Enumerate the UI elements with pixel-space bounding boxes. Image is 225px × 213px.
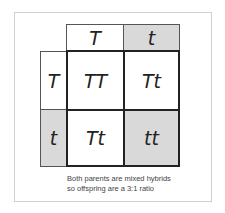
- caption: Both parents are mixed hybrids so offspr…: [67, 174, 217, 194]
- offspring-cell-tt: tt: [123, 109, 180, 167]
- caption-line-1: Both parents are mixed hybrids: [67, 174, 217, 184]
- top-allele-2: t: [123, 24, 180, 52]
- top-allele-1: T: [66, 24, 124, 52]
- offspring-cell-Tt-bottom: Tt: [66, 109, 125, 167]
- caption-line-2: so offspring are a 3:1 ratio: [67, 184, 217, 194]
- left-allele-1: T: [40, 51, 67, 110]
- left-allele-2: t: [40, 109, 67, 167]
- offspring-cell-Tt-top: Tt: [123, 50, 180, 111]
- offspring-cell-TT: TT: [66, 50, 125, 111]
